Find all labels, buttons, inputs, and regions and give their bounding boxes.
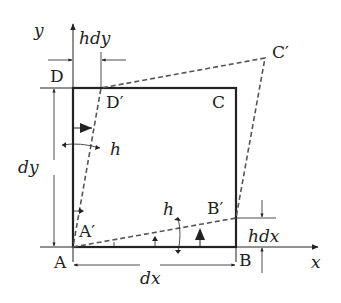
bottom-shear-arrows [114, 217, 205, 254]
point-A-label: A [53, 252, 67, 272]
point-C-prime-label: C′ [272, 42, 289, 62]
dy-label: dy [18, 157, 39, 177]
diagram-canvas: y x D D′ C C′ B′ B A′ A hdy dy dx hdx h … [0, 0, 341, 303]
point-A-prime-label: A′ [78, 221, 95, 241]
bottom-angle-label: h [163, 199, 174, 219]
hdy-label: hdy [79, 28, 111, 48]
point-C-label: C [212, 92, 225, 112]
hdx-label: hdx [248, 226, 280, 246]
point-D-label: D [50, 66, 64, 86]
point-B-label: B [239, 250, 252, 270]
point-D-prime-label: D′ [106, 92, 124, 112]
point-B-prime-label: B′ [207, 198, 223, 218]
x-axis-label: x [311, 252, 321, 272]
left-angle-label: h [110, 139, 121, 159]
deformation-diagram: y x D D′ C C′ B′ B A′ A hdy dy dx hdx h … [0, 0, 341, 303]
dx-label: dx [140, 268, 161, 288]
y-axis-label: y [33, 20, 44, 40]
